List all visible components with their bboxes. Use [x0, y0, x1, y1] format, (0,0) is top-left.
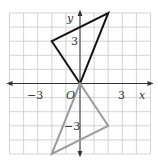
axis-labels: y x O −3 3 3 −3: [27, 12, 146, 133]
x-tick-neg3: −3: [27, 89, 43, 102]
coordinate-plane: y x O −3 3 3 −3: [0, 0, 158, 165]
x-tick-3: 3: [118, 89, 125, 102]
y-axis-label: y: [66, 12, 74, 25]
y-tick-3: 3: [71, 35, 78, 48]
x-axis-label: x: [139, 89, 146, 102]
origin-label: O: [66, 89, 75, 102]
y-tick-neg3: −3: [64, 120, 80, 133]
